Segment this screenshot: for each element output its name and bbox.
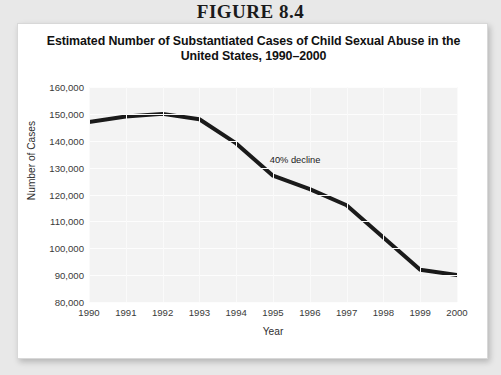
figure-number-header: FIGURE 8.4 xyxy=(0,1,501,23)
gridline-vertical xyxy=(89,87,90,302)
y-axis-tick-labels: 160,000150,000140,000130,000120,000110,0… xyxy=(21,87,84,302)
gridline-vertical xyxy=(273,87,274,302)
gridline-vertical xyxy=(347,87,348,302)
chart-title-line-2: United States, 1990–2000 xyxy=(181,49,327,63)
x-axis-tick-label: 2000 xyxy=(446,307,467,318)
x-axis-tick-label: 1993 xyxy=(189,307,210,318)
x-axis-tick-label: 1990 xyxy=(78,307,99,318)
gridline-vertical xyxy=(236,87,237,302)
x-axis-tick-label: 1998 xyxy=(373,307,394,318)
y-axis-tick-label: 120,000 xyxy=(24,189,84,200)
x-axis-tick-label: 1994 xyxy=(226,307,247,318)
x-axis-tick-labels: 1990199119921993199419951996199719981999… xyxy=(89,307,457,321)
x-axis-label: Year xyxy=(89,326,457,337)
chart-title: Estimated Number of Substantiated Cases … xyxy=(30,34,477,64)
y-axis-tick-label: 100,000 xyxy=(24,243,84,254)
gridline-vertical xyxy=(457,87,458,302)
plot-area: 40% decline xyxy=(89,87,457,302)
x-axis-tick-label: 1991 xyxy=(115,307,136,318)
y-axis-tick-label: 110,000 xyxy=(24,216,84,227)
gridline-vertical xyxy=(199,87,200,302)
x-axis-tick-label: 1996 xyxy=(299,307,320,318)
x-axis-tick-label: 1999 xyxy=(410,307,431,318)
x-axis-tick-label: 1992 xyxy=(152,307,173,318)
y-axis-tick-label: 90,000 xyxy=(24,270,84,281)
chart-annotation: 40% decline xyxy=(270,155,321,165)
y-axis-tick-label: 140,000 xyxy=(24,135,84,146)
y-axis-tick-label: 80,000 xyxy=(24,297,84,308)
x-axis-tick-label: 1997 xyxy=(336,307,357,318)
figure-card: Estimated Number of Substantiated Cases … xyxy=(17,23,488,359)
y-axis-tick-label: 130,000 xyxy=(24,162,84,173)
x-axis-tick-label: 1995 xyxy=(262,307,283,318)
chart-title-line-1: Estimated Number of Substantiated Cases … xyxy=(47,34,460,48)
y-axis-tick-label: 160,000 xyxy=(24,82,84,93)
gridline-horizontal xyxy=(89,302,457,303)
y-axis-tick-label: 150,000 xyxy=(24,108,84,119)
gridline-vertical xyxy=(126,87,127,302)
gridline-vertical xyxy=(383,87,384,302)
gridline-vertical xyxy=(420,87,421,302)
gridline-vertical xyxy=(310,87,311,302)
gridline-vertical xyxy=(163,87,164,302)
